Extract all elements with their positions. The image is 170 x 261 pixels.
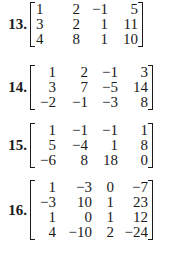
problem-number: 16. <box>0 202 30 219</box>
matrix-cell: −1 <box>56 95 88 110</box>
matrix-cell: 1 <box>36 180 56 195</box>
matrix-cell: 14 <box>118 80 148 95</box>
matrix-cell: −1 <box>56 123 88 138</box>
problem-13: 13. 1 2 −1 5 3 2 1 11 4 8 1 10 <box>0 2 143 47</box>
matrix-cell: 1 <box>36 65 56 80</box>
matrix-row: 1 −3 0 −7 <box>36 180 148 195</box>
matrix-cell: 4 <box>36 32 58 47</box>
matrix-cell: 1 <box>36 2 58 17</box>
matrix-row: 1 −1 −1 1 <box>36 123 148 138</box>
matrix-cell: 1 <box>80 17 108 32</box>
matrix-row: −2 −1 −3 8 <box>36 95 148 110</box>
matrix-row: 4 −10 2 −24 <box>36 225 148 240</box>
matrix-cell: 1 <box>88 138 118 153</box>
problem-number: 15. <box>0 137 30 154</box>
matrix-cell: 1 <box>80 32 108 47</box>
matrix-cell: 1 <box>36 123 56 138</box>
matrix-cell: 3 <box>36 17 58 32</box>
matrix-cell: −1 <box>80 2 108 17</box>
matrix-cell: 8 <box>118 95 148 110</box>
problem-15: 15. 1 −1 −1 1 5 −4 1 8 −6 8 18 0 <box>0 123 153 168</box>
matrix-row: 4 8 1 10 <box>36 32 138 47</box>
matrix-cell: 2 <box>92 225 114 240</box>
matrix-row: 3 2 1 11 <box>36 17 138 32</box>
matrix-cell: 2 <box>58 17 80 32</box>
matrix-cell: 23 <box>114 195 148 210</box>
augmented-matrix: 1 2 −1 3 3 7 −5 14 −2 −1 −3 8 <box>30 65 153 110</box>
matrix-cell: 5 <box>108 2 138 17</box>
matrix-cell: 11 <box>108 17 138 32</box>
matrix-row: 1 2 −1 5 <box>36 2 138 17</box>
matrix-cell: −24 <box>114 225 148 240</box>
matrix-cell: 10 <box>56 195 92 210</box>
matrix-cell: 0 <box>118 153 148 168</box>
matrix-cell: 0 <box>56 210 92 225</box>
matrix-cell: −1 <box>88 123 118 138</box>
matrix-cell: −10 <box>56 225 92 240</box>
matrix-cell: 5 <box>36 138 56 153</box>
matrix-cell: 7 <box>56 80 88 95</box>
matrix-cell: 8 <box>58 32 80 47</box>
matrix-cell: −2 <box>36 95 56 110</box>
problem-16: 16. 1 −3 0 −7 −3 10 1 23 1 0 1 12 <box>0 180 153 240</box>
matrix-cell: 1 <box>118 123 148 138</box>
problem-14: 14. 1 2 −1 3 3 7 −5 14 −2 −1 −3 8 <box>0 65 153 110</box>
matrix-cell: −7 <box>114 180 148 195</box>
matrix-cell: 8 <box>56 153 88 168</box>
matrix-cell: −3 <box>56 180 92 195</box>
matrix-row: 3 7 −5 14 <box>36 80 148 95</box>
matrix-cell: −4 <box>56 138 88 153</box>
problem-number: 13. <box>0 16 30 33</box>
matrix-cell: −1 <box>88 65 118 80</box>
matrix-cell: 0 <box>92 180 114 195</box>
matrix-cell: 8 <box>118 138 148 153</box>
problem-number: 14. <box>0 79 30 96</box>
matrix-cell: 3 <box>118 65 148 80</box>
matrix-row: 5 −4 1 8 <box>36 138 148 153</box>
matrix-cell: −6 <box>36 153 56 168</box>
matrix-cell: 1 <box>92 195 114 210</box>
matrix-cell: −3 <box>36 195 56 210</box>
augmented-matrix: 1 −3 0 −7 −3 10 1 23 1 0 1 12 4 −10 2 <box>30 180 153 240</box>
matrix-cell: 4 <box>36 225 56 240</box>
matrix-cell: 1 <box>36 210 56 225</box>
matrix-row: −3 10 1 23 <box>36 195 148 210</box>
augmented-matrix: 1 −1 −1 1 5 −4 1 8 −6 8 18 0 <box>30 123 153 168</box>
matrix-cell: 3 <box>36 80 56 95</box>
matrix-cell: −3 <box>88 95 118 110</box>
matrix-cell: 2 <box>58 2 80 17</box>
matrix-cell: 10 <box>108 32 138 47</box>
matrix-cell: 2 <box>56 65 88 80</box>
augmented-matrix: 1 2 −1 5 3 2 1 11 4 8 1 10 <box>30 2 143 47</box>
matrix-row: 1 2 −1 3 <box>36 65 148 80</box>
matrix-row: −6 8 18 0 <box>36 153 148 168</box>
matrix-cell: 18 <box>88 153 118 168</box>
matrix-cell: 1 <box>92 210 114 225</box>
matrix-cell: −5 <box>88 80 118 95</box>
matrix-cell: 12 <box>114 210 148 225</box>
matrix-row: 1 0 1 12 <box>36 210 148 225</box>
